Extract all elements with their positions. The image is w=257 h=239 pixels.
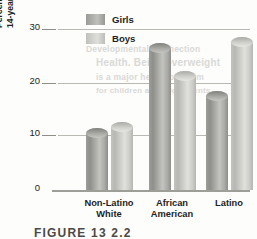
legend-label-boys: Boys [112, 33, 135, 44]
y-tick-label-10: 10 [24, 127, 40, 138]
bar-body [149, 48, 171, 190]
bar-latino-boys [231, 37, 253, 190]
plot-area: 30 20 10 0 Percentage of overweight 11- … [58, 20, 250, 190]
bar-top-ellipse [86, 128, 108, 138]
tick-rule-20 [42, 83, 56, 84]
bar-body [111, 127, 133, 190]
y-tick-label-20: 20 [24, 75, 40, 86]
bar-non-latino-white-boys [111, 122, 133, 190]
tick-rule-10 [42, 135, 56, 136]
bar-top-ellipse [231, 37, 253, 47]
y-tick-label-0: 0 [24, 182, 40, 193]
legend-label-girls: Girls [112, 14, 134, 25]
bar-african-american-boys [174, 71, 196, 190]
figure-caption: FIGURE 13 2.2 [34, 226, 132, 239]
x-axis-label-line: White [74, 209, 144, 220]
x-axis-label-latino: Latino [194, 198, 257, 209]
x-axis-label-line: American [137, 209, 207, 220]
bar-top-ellipse [149, 43, 171, 53]
legend-item-boys: Boys [86, 33, 135, 44]
y-tick-label-30: 30 [24, 21, 40, 32]
legend-item-girls: Girls [86, 14, 134, 25]
legend-swatch-boys-icon [86, 33, 105, 44]
legend-swatch-girls-icon [86, 14, 105, 25]
bar-top-ellipse [206, 91, 228, 101]
bar-body [86, 133, 108, 190]
bar-body [231, 42, 253, 190]
bar-top-ellipse [174, 71, 196, 81]
bar-body [174, 76, 196, 190]
bar-african-american-girls [149, 43, 171, 190]
tick-rule-30 [42, 29, 56, 30]
figure-container: Developmental Connection Health. Being o… [0, 0, 257, 239]
bar-top-ellipse [111, 122, 133, 132]
bar-non-latino-white-girls [86, 128, 108, 190]
x-axis-label-line: Latino [194, 198, 257, 209]
x-axis-baseline [52, 190, 250, 192]
gridline-30 [58, 29, 250, 30]
x-axis-label-non-latino-white: Non-LatinoWhite [74, 198, 144, 220]
x-axis-label-line: Non-Latino [74, 198, 144, 209]
y-axis-title-line-2: 14-year-olds in the United States [5, 0, 16, 28]
bar-latino-girls [206, 91, 228, 190]
y-axis-title-line-1: Percentage of overweight 11- to [0, 0, 5, 28]
bar-body [206, 96, 228, 190]
